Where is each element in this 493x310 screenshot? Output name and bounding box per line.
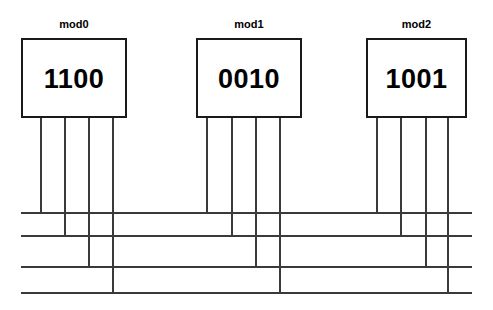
module-value-mod0: 1100 — [21, 66, 127, 93]
module-label-mod2: mod2 — [366, 18, 467, 30]
module-label-mod1: mod1 — [196, 18, 302, 30]
diagram-canvas: mod01100mod10010mod21001 — [0, 0, 493, 310]
module-mod0[interactable]: mod01100 — [21, 0, 127, 310]
module-mod2[interactable]: mod21001 — [366, 0, 467, 310]
module-value-mod2: 1001 — [366, 66, 467, 93]
module-mod1[interactable]: mod10010 — [196, 0, 302, 310]
module-value-mod1: 0010 — [196, 66, 302, 93]
module-label-mod0: mod0 — [21, 18, 127, 30]
